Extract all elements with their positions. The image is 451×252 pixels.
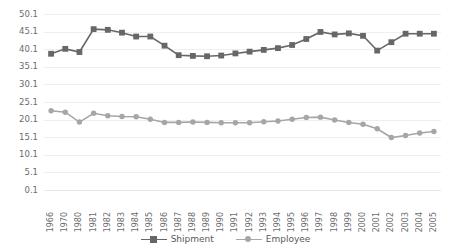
x-axis-tick-label: 1987 bbox=[175, 212, 183, 232]
x-axis-tick-label: 2000 bbox=[359, 212, 367, 232]
y-axis-tick-label: 30.1 bbox=[0, 80, 38, 89]
x-axis-tick-label: 1986 bbox=[161, 212, 169, 232]
legend-label-employee: Employee bbox=[266, 234, 311, 244]
x-axis-tick-label: 1991 bbox=[231, 212, 239, 232]
x-axis-tick-label: 1990 bbox=[217, 212, 225, 232]
gridline bbox=[44, 67, 441, 68]
x-axis-tick-label: 2003 bbox=[402, 212, 410, 232]
y-axis: 0.15.110.115.120.125.130.135.140.145.150… bbox=[0, 0, 40, 252]
gridlines bbox=[44, 14, 441, 190]
x-axis-tick-label: 1992 bbox=[246, 212, 254, 232]
x-axis-tick-label: 1996 bbox=[302, 212, 310, 232]
chart-legend: Shipment Employee bbox=[0, 230, 451, 248]
gridline bbox=[44, 120, 441, 121]
gridline bbox=[44, 137, 441, 138]
x-axis-tick-label: 1989 bbox=[203, 212, 211, 232]
y-axis-tick-label: 15.1 bbox=[0, 133, 38, 142]
y-axis-tick-label: 35.1 bbox=[0, 62, 38, 71]
y-axis-tick-label: 40.1 bbox=[0, 45, 38, 54]
legend-item-shipment[interactable]: Shipment bbox=[141, 234, 214, 244]
x-axis-tick-label: 1985 bbox=[146, 212, 154, 232]
x-axis-tick-label: 1982 bbox=[104, 212, 112, 232]
circle-marker-icon bbox=[245, 236, 251, 242]
gridline bbox=[44, 155, 441, 156]
x-axis-tick-label: 1998 bbox=[331, 212, 339, 232]
x-axis-tick-label: 2005 bbox=[430, 212, 438, 232]
x-axis-tick-label: 1966 bbox=[47, 212, 55, 232]
x-axis-tick-label: 1988 bbox=[189, 212, 197, 232]
plot-area bbox=[44, 14, 441, 190]
gridline bbox=[44, 32, 441, 33]
gridline bbox=[44, 84, 441, 85]
y-axis-tick-label: 5.1 bbox=[0, 168, 38, 177]
legend-marker-employee bbox=[236, 234, 262, 244]
square-marker-icon bbox=[150, 236, 157, 243]
y-axis-tick-label: 25.1 bbox=[0, 98, 38, 107]
y-axis-tick-label: 20.1 bbox=[0, 115, 38, 124]
gridline bbox=[44, 172, 441, 173]
legend-label-shipment: Shipment bbox=[171, 234, 214, 244]
gridline bbox=[44, 190, 441, 191]
y-axis-tick-label: 10.1 bbox=[0, 150, 38, 159]
gridline bbox=[44, 102, 441, 103]
x-axis-tick-label: 2001 bbox=[373, 212, 381, 232]
x-axis-tick-label: 1999 bbox=[345, 212, 353, 232]
legend-item-employee[interactable]: Employee bbox=[236, 234, 311, 244]
legend-marker-shipment bbox=[141, 234, 167, 244]
x-axis-tick-label: 1980 bbox=[75, 212, 83, 232]
gridline bbox=[44, 14, 441, 15]
x-axis-tick-label: 1983 bbox=[118, 212, 126, 232]
x-axis-tick-label: 2002 bbox=[387, 212, 395, 232]
x-axis-tick-label: 1993 bbox=[260, 212, 268, 232]
x-axis-tick-label: 1997 bbox=[316, 212, 324, 232]
x-axis-tick-label: 1970 bbox=[61, 212, 69, 232]
gridline bbox=[44, 49, 441, 50]
x-axis-tick-label: 1995 bbox=[288, 212, 296, 232]
x-axis: 1966197019801981198219831984198519861987… bbox=[44, 192, 441, 232]
x-axis-tick-label: 1984 bbox=[132, 212, 140, 232]
y-axis-tick-label: 0.1 bbox=[0, 186, 38, 195]
y-axis-tick-label: 50.1 bbox=[0, 10, 38, 19]
x-axis-tick-label: 1994 bbox=[274, 212, 282, 232]
x-axis-tick-label: 1981 bbox=[90, 212, 98, 232]
line-chart: 0.15.110.115.120.125.130.135.140.145.150… bbox=[0, 0, 451, 252]
x-axis-tick-label: 2004 bbox=[416, 212, 424, 232]
y-axis-tick-label: 45.1 bbox=[0, 27, 38, 36]
